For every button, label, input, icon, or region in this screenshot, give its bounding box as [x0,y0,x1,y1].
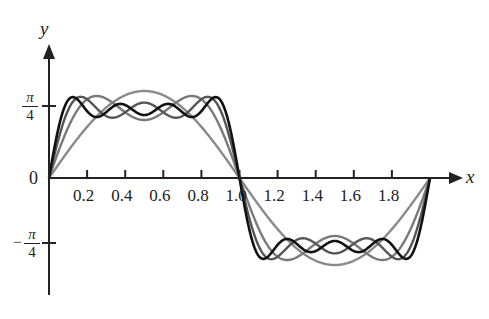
x-ticks [87,170,392,178]
axes [42,44,463,295]
x-axis-arrow-icon [449,172,463,184]
x-tick-label: 1.2 [264,186,285,206]
x-tick-label: 1.0 [226,186,247,206]
minus-sign: − [13,234,21,251]
y-tick-label-neg-pi-over-4: π 4 [24,227,40,260]
fraction-denominator: 4 [22,108,38,123]
fraction-numerator: π [22,90,38,105]
y-tick-label-pi-over-4: π 4 [22,90,38,123]
y-tick-label-zero: 0 [29,168,38,189]
y-axis-arrow-icon [43,44,55,59]
x-tick-label: 1.8 [378,186,399,206]
x-tick-label: 1.4 [302,186,323,206]
x-tick-label: 0.4 [111,186,132,206]
fraction-denominator: 4 [24,245,40,260]
y-axis-label: y [40,18,48,40]
x-tick-label: 0.8 [187,186,208,206]
x-tick-label: 0.6 [149,186,170,206]
x-axis-label: x [466,166,474,188]
chart-plot-area [0,0,489,319]
x-tick-label: 0.2 [73,186,94,206]
x-tick-label: 1.6 [340,186,361,206]
fraction-numerator: π [24,227,40,242]
